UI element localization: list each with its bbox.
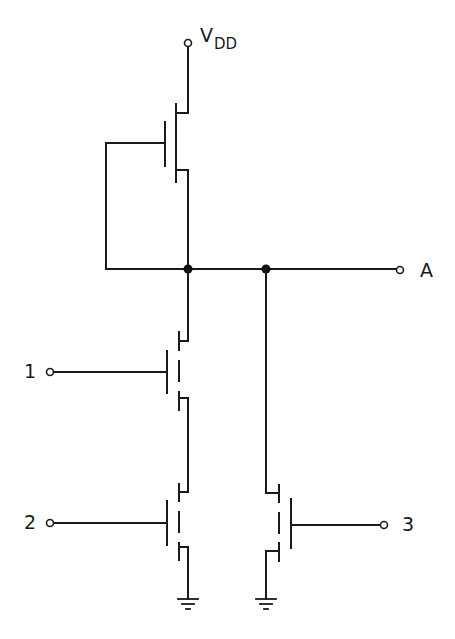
output-terminal bbox=[397, 267, 404, 274]
transistor-3 bbox=[266, 269, 388, 599]
input-2-terminal bbox=[47, 520, 54, 527]
transistor-1 bbox=[47, 269, 189, 492]
input-2-label: 2 bbox=[24, 513, 36, 532]
load-transistor bbox=[106, 104, 188, 269]
output-label: A bbox=[420, 261, 433, 280]
vdd-label-sub: DD bbox=[214, 35, 237, 53]
ground-icon bbox=[256, 599, 276, 609]
input-3-terminal bbox=[381, 522, 388, 529]
input-3-label: 3 bbox=[402, 515, 414, 534]
input-1-label: 1 bbox=[24, 362, 36, 381]
input-1-terminal bbox=[47, 369, 54, 376]
schematic bbox=[0, 0, 455, 639]
ground-icon bbox=[178, 599, 198, 609]
output-node bbox=[184, 265, 404, 274]
transistor-2 bbox=[47, 484, 189, 599]
vdd-terminal bbox=[185, 40, 192, 114]
circuit-diagram: VDD A 1 2 3 bbox=[0, 0, 455, 639]
vdd-label-main: V bbox=[200, 24, 213, 46]
vdd-label: VDD bbox=[200, 26, 237, 45]
